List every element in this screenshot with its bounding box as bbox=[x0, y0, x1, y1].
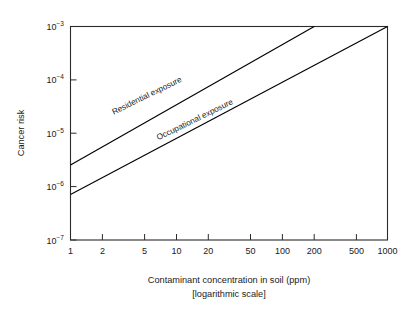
x-tick-label: 5 bbox=[142, 246, 147, 256]
x-tick-label: 10 bbox=[171, 246, 181, 256]
x-tick-label: 1 bbox=[68, 246, 73, 256]
chart-figure: 10−3 10−4 10−5 10−6 10−7 bbox=[0, 0, 418, 310]
x-tick-label: 200 bbox=[307, 246, 322, 256]
x-tick-label: 50 bbox=[245, 246, 255, 256]
x-tick-label: 500 bbox=[349, 246, 364, 256]
cancer-risk-log-log-chart: 10−3 10−4 10−5 10−6 10−7 bbox=[0, 0, 418, 310]
y-axis-title: Cancer risk bbox=[16, 109, 26, 156]
x-tick-label: 2 bbox=[100, 246, 105, 256]
x-tick-label: 1000 bbox=[377, 246, 397, 256]
x-axis-title: Contaminant concentration in soil (ppm) bbox=[148, 275, 310, 285]
chart-background bbox=[0, 0, 418, 310]
x-axis-title-scale-note: [logarithmic scale] bbox=[192, 289, 266, 299]
x-tick-label: 20 bbox=[203, 246, 213, 256]
x-tick-label: 100 bbox=[275, 246, 290, 256]
